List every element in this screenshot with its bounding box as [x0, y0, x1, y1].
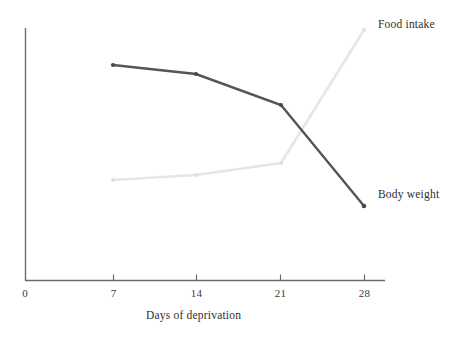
chart-figure: 0 7 14 21 28 Days of deprivation Food in…	[0, 0, 459, 340]
x-tick-label-21: 21	[266, 287, 296, 299]
line-chart-plot	[0, 0, 459, 340]
series-line-body-weight	[113, 65, 364, 206]
x-tick-label-7: 7	[99, 287, 129, 299]
series-point-body-weight	[194, 72, 198, 76]
series-point-food-intake	[362, 28, 366, 32]
series-label-food-intake: Food intake	[378, 18, 435, 30]
x-tick-label-28: 28	[350, 287, 380, 299]
series-point-food-intake	[279, 161, 283, 165]
x-axis-title: Days of deprivation	[146, 309, 241, 321]
series-label-body-weight: Body weight	[378, 188, 439, 200]
series-point-body-weight	[362, 204, 367, 209]
x-tick-label-0: 0	[10, 287, 40, 299]
series-line-food-intake	[113, 30, 364, 180]
series-point-food-intake	[194, 173, 198, 177]
series-point-food-intake	[111, 178, 115, 182]
series-point-body-weight	[279, 103, 283, 107]
x-tick-label-14: 14	[182, 287, 212, 299]
series-point-body-weight	[111, 63, 115, 67]
